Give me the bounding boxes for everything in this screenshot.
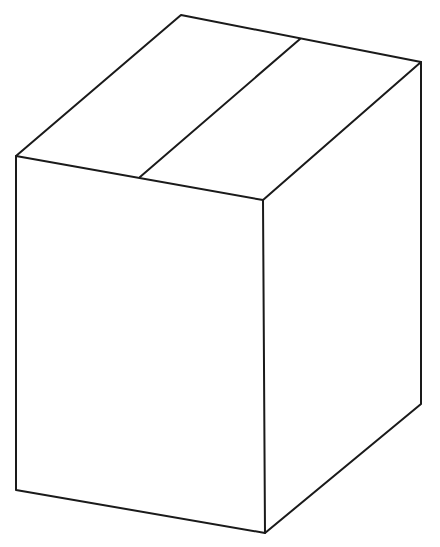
box-line-drawing <box>0 0 440 547</box>
figure-caption <box>0 537 440 547</box>
box-figure-container <box>0 0 440 547</box>
front-face <box>16 156 265 533</box>
